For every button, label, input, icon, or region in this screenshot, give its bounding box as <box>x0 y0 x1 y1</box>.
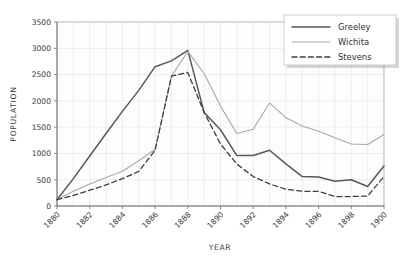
legend-label-greeley: Greeley <box>338 22 371 32</box>
y-axis-title: POPULATION <box>9 86 18 141</box>
y-tick-label: 3000 <box>32 44 51 53</box>
y-tick-label: 1000 <box>32 149 51 158</box>
y-tick-label: 1500 <box>32 123 51 132</box>
y-tick-label: 3500 <box>32 18 51 27</box>
legend-label-wichita: Wichita <box>338 37 369 47</box>
y-tick-label: 0 <box>46 202 51 211</box>
chart-legend: GreeleyWichitaStevens <box>284 15 399 68</box>
y-tick-label: 2500 <box>32 70 51 79</box>
x-axis-title: YEAR <box>208 243 232 252</box>
chart-canvas: 0500100015002000250030003500 18801882188… <box>0 0 411 260</box>
population-line-chart: 0500100015002000250030003500 18801882188… <box>0 0 411 260</box>
y-tick-label: 500 <box>37 176 52 185</box>
y-tick-label: 2000 <box>32 97 51 106</box>
legend-label-stevens: Stevens <box>338 52 372 62</box>
